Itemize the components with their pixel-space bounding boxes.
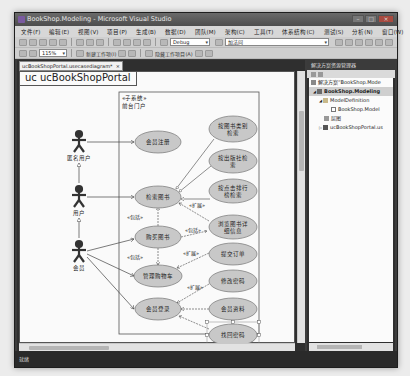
standard-toolbar: Debug 加法问 [15,37,397,48]
tree-item-project[interactable]: ◢BookShop.Modeling [309,87,393,96]
copy-icon[interactable] [86,39,94,46]
menu-view[interactable]: 视图(V) [76,28,100,36]
usecase-search-by-publisher[interactable]: 按出版社检 索 [209,149,257,173]
find-icon[interactable] [215,39,223,46]
usecase-recover-password[interactable]: 找回密码 [206,321,261,344]
extension-manager-icon[interactable] [375,39,383,46]
tab-label: ucBookShopPortal.usecasediagram* [22,63,113,69]
solution-explorer-panel: 解决方案资源管理器 解决方案“BookShop.Mode ◢BookShop.M… [307,60,395,352]
menu-analyze[interactable]: 分析(N) [350,28,374,36]
actor-label: 用户 [73,209,85,217]
hide-work-item-label[interactable]: 隐藏工作项目(A) [155,50,192,57]
layer-diagram-icon [324,116,329,121]
toolbox-icon[interactable] [365,39,373,46]
collapse-arrow-icon[interactable]: ◢ [313,89,316,94]
save-all-icon[interactable] [59,39,67,46]
scroll-thumb[interactable] [29,346,109,350]
tree-item-solution[interactable]: 解决方案“BookShop.Mode [309,78,393,87]
usecase-view-book-detail[interactable]: 浏览图书详 细信息 [209,215,257,239]
usecase-submit-order[interactable]: 提交订单 [209,243,257,265]
menu-edit[interactable]: 编辑(E) [47,28,71,36]
menu-architecture[interactable]: 架构(C) [223,28,247,36]
tree-item-usecase-diagram[interactable]: ▷ucBookShopPortal.us [309,123,393,132]
open-file-icon[interactable] [39,39,47,46]
usecase-search-books[interactable]: 检索图书 [135,186,181,208]
tab-close-icon[interactable]: × [116,62,120,70]
properties-icon[interactable] [345,39,353,46]
solution-config-select[interactable]: Debug [170,38,210,46]
collapse-arrow-icon[interactable]: ◢ [319,98,322,103]
zoom-out-icon[interactable] [29,50,37,57]
paste-icon[interactable] [96,39,104,46]
svg-text:按点击排行: 按点击排行 [218,184,248,192]
usecase-member-login[interactable]: 会员登录 [135,298,181,320]
find-combo[interactable]: 加法问 [225,38,329,46]
cut-icon[interactable] [76,39,84,46]
properties-icon[interactable] [311,72,316,77]
tab-usecase-diagram[interactable]: ucBookShopPortal.usecasediagram* × [19,61,123,71]
toolbar-separator [108,38,109,46]
svg-text:会员登录: 会员登录 [146,305,170,313]
save-icon[interactable] [49,39,57,46]
diagram-vertical-scrollbar[interactable] [297,71,305,343]
layout-icon[interactable] [195,50,203,57]
add-item-icon[interactable] [29,39,37,46]
usecase-search-by-category[interactable]: 按图书类别 检索 [209,116,257,142]
svg-text:浏览图书详: 浏览图书详 [218,220,248,228]
tree-item-model-definition[interactable]: ◢ModelDefinition [309,96,393,105]
start-debug-icon[interactable] [160,39,168,46]
new-work-item-label[interactable]: 新建工作项(I) [86,50,116,57]
scroll-thumb[interactable] [299,111,304,171]
expand-arrow-icon[interactable]: ▷ [319,125,322,130]
resize-handle[interactable] [232,321,235,324]
solution-explorer-toolbar [307,70,395,78]
diagram-canvas[interactable]: uc ucBookShopPortal «子系统» 前台门户 [19,71,295,343]
svg-text:会员注册: 会员注册 [146,138,170,146]
close-button[interactable]: × [378,15,394,23]
svg-text:«包括»: «包括» [127,214,143,221]
navigate-back-icon[interactable] [133,39,141,46]
zoom-select[interactable]: 115% [39,49,67,57]
maximize-button[interactable]: □ [365,15,377,23]
tree-item-layer-diagram[interactable]: 层图 [309,114,393,123]
query-icon[interactable] [128,50,136,57]
usecase-member-profile[interactable]: 会员资料 [209,298,257,320]
svg-text:修改密码: 修改密码 [221,277,245,285]
resize-handle[interactable] [206,321,209,324]
usecase-change-password[interactable]: 修改密码 [209,270,257,292]
new-work-item-icon[interactable] [76,50,84,57]
resize-handle[interactable] [258,334,261,337]
tree-item-model-file[interactable]: BookShop.Model [309,105,393,114]
svg-text:榜检索: 榜检索 [224,191,242,199]
link-icon[interactable] [118,50,126,57]
resize-handle[interactable] [206,334,209,337]
menu-window[interactable]: 窗口(W) [380,28,406,36]
menu-project[interactable]: 项目(P) [105,28,129,36]
menu-arch-tools[interactable]: 体系结构(C) [280,28,316,36]
zoom-in-icon[interactable] [19,50,27,57]
subsystem-name: 前台门户 [122,102,146,110]
hide-work-item-icon[interactable] [145,50,153,57]
menu-tools[interactable]: 工具(T) [252,28,276,36]
menu-test[interactable]: 测试(S) [322,28,346,36]
usecase-buy-books[interactable]: 购买图书 [135,226,181,248]
resize-handle[interactable] [258,321,261,324]
usecase-search-by-ranking[interactable]: 按点击排行 榜检索 [209,179,257,203]
solution-explorer-icon[interactable] [335,39,343,46]
new-project-icon[interactable] [19,39,27,46]
export-icon[interactable] [205,50,213,57]
undo-icon[interactable] [113,39,121,46]
usecase-manage-cart[interactable]: 管理购物车 [134,265,182,287]
usecase-register[interactable]: 会员注册 [135,131,181,153]
minimize-button[interactable]: – [352,15,364,23]
menu-file[interactable]: 文件(F) [19,28,42,36]
object-browser-icon[interactable] [355,39,363,46]
menu-build[interactable]: 生成(B) [134,28,158,36]
show-all-files-icon[interactable] [318,72,323,77]
menu-data[interactable]: 数据(D) [163,28,188,36]
start-page-icon[interactable] [385,39,393,46]
navigate-forward-icon[interactable] [143,39,151,46]
scroll-thumb[interactable] [317,345,362,349]
redo-icon[interactable] [123,39,131,46]
menu-team[interactable]: 团队(M) [193,28,218,36]
